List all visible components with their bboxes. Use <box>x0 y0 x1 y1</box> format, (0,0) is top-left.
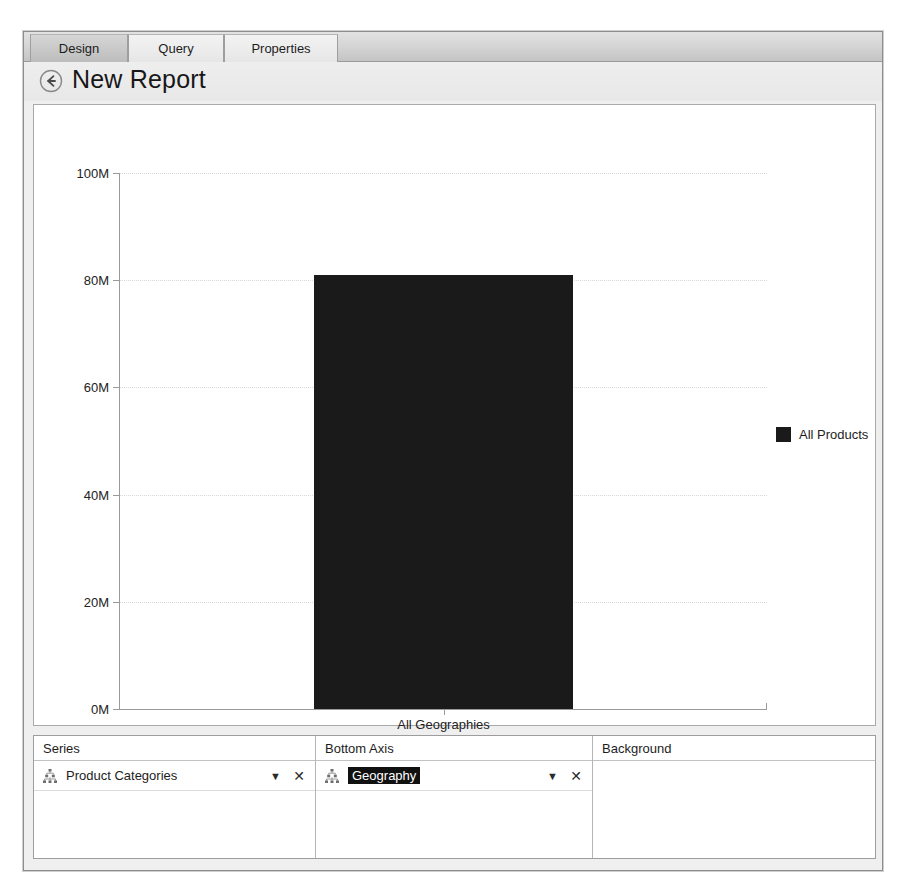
page-title: New Report <box>72 65 206 94</box>
field-well-series[interactable]: Series Product Categories ▼ ✕ <box>34 736 316 858</box>
chevron-down-icon[interactable]: ▼ <box>547 770 558 781</box>
field-row-geography[interactable]: Geography ▼ ✕ <box>316 761 592 791</box>
report-designer-window: Design Query Properties New Report 0M20M… <box>23 31 883 871</box>
legend-swatch-all-products <box>776 427 791 442</box>
x-axis-end-tick <box>766 703 767 710</box>
tab-design[interactable]: Design <box>30 34 128 62</box>
chart-canvas[interactable]: 0M20M40M60M80M100M All Geographies All P… <box>33 104 876 726</box>
tab-design-label: Design <box>59 41 99 56</box>
close-icon[interactable]: ✕ <box>293 769 305 783</box>
tab-properties[interactable]: Properties <box>224 34 338 62</box>
x-axis-category-label: All Geographies <box>354 717 534 732</box>
chevron-down-icon[interactable]: ▼ <box>270 770 281 781</box>
y-axis-tick-label: 60M <box>49 380 109 395</box>
field-well-bottom-axis-header: Bottom Axis <box>316 736 592 761</box>
close-icon[interactable]: ✕ <box>570 769 582 783</box>
tab-query[interactable]: Query <box>128 34 224 62</box>
bar-all-products[interactable] <box>314 275 573 709</box>
chart-legend[interactable]: All Products <box>776 427 868 442</box>
back-arrow-icon[interactable] <box>39 69 63 93</box>
field-well-background-header: Background <box>593 736 875 761</box>
field-wells: Series Product Categories ▼ ✕ <box>33 735 876 859</box>
y-axis-tick-label: 0M <box>49 702 109 717</box>
x-axis-category-tick <box>444 709 445 715</box>
tab-query-label: Query <box>158 41 193 56</box>
field-well-bottom-axis[interactable]: Bottom Axis Geography ▼ ✕ <box>316 736 593 858</box>
field-name-geography[interactable]: Geography <box>348 767 420 784</box>
title-bar: New Report <box>24 62 882 101</box>
field-well-background[interactable]: Background <box>593 736 875 858</box>
y-axis-tick-label: 100M <box>49 166 109 181</box>
field-well-background-body[interactable] <box>593 761 875 857</box>
y-axis-tick-label: 80M <box>49 273 109 288</box>
hierarchy-icon <box>324 768 340 784</box>
field-well-bottom-axis-body[interactable] <box>316 791 592 857</box>
y-axis-tick-label: 20M <box>49 594 109 609</box>
plot-area: 0M20M40M60M80M100M All Geographies All P… <box>34 105 875 725</box>
field-row-product-categories[interactable]: Product Categories ▼ ✕ <box>34 761 315 791</box>
field-name-product-categories: Product Categories <box>66 768 177 783</box>
tab-strip: Design Query Properties <box>24 32 882 62</box>
field-well-series-header: Series <box>34 736 315 761</box>
field-well-series-body[interactable] <box>34 791 315 857</box>
tab-properties-label: Properties <box>251 41 310 56</box>
hierarchy-icon <box>42 768 58 784</box>
legend-label-all-products: All Products <box>799 427 868 442</box>
y-axis-tick-label: 40M <box>49 487 109 502</box>
y-axis-line <box>119 173 120 709</box>
gridline <box>120 173 767 175</box>
y-axis-tick-labels: 0M20M40M60M80M100M <box>44 105 109 725</box>
